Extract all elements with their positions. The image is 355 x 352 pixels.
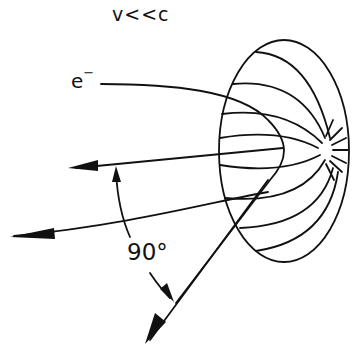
angle-arrowhead-lower-icon xyxy=(160,283,174,302)
radiation-diagram xyxy=(0,0,355,352)
electron-charge: − xyxy=(83,65,94,80)
velocity-arrowhead-icon xyxy=(68,160,98,171)
velocity-condition-label: v<<c xyxy=(112,3,170,25)
electron-label: e− xyxy=(71,68,94,93)
angle-arrowhead-upper-icon xyxy=(112,166,121,182)
emission-arrowhead-icon xyxy=(145,313,166,344)
electron-symbol: e xyxy=(71,69,83,93)
angle-label: 90° xyxy=(127,239,168,265)
far-arrowhead-icon xyxy=(10,228,55,239)
velocity-line xyxy=(76,148,283,168)
